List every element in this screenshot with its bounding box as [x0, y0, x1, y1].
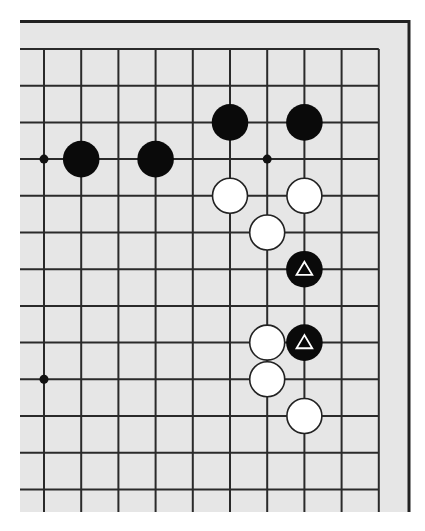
white-stone: [213, 178, 248, 213]
white-stone: [250, 325, 285, 360]
white-stone-body: [250, 362, 285, 397]
black-stone: [286, 251, 323, 288]
white-stone-body: [250, 215, 285, 250]
white-stone-body: [250, 325, 285, 360]
black-stone: [63, 141, 100, 178]
white-stone-body: [213, 178, 248, 213]
go-board: [0, 0, 425, 531]
black-stone-body: [63, 141, 100, 178]
black-stone-body: [137, 141, 174, 178]
black-stone: [212, 104, 249, 141]
board-background: [20, 21, 409, 512]
black-stone: [286, 324, 323, 361]
star-point: [263, 155, 272, 164]
white-stone: [287, 178, 322, 213]
white-stone-body: [287, 399, 322, 434]
white-stone-body: [287, 178, 322, 213]
black-stone-body: [286, 251, 323, 288]
black-stone-body: [286, 324, 323, 361]
go-diagram: [0, 0, 425, 531]
white-stone: [250, 362, 285, 397]
white-stone: [250, 215, 285, 250]
black-stone-body: [286, 104, 323, 141]
white-stone: [287, 399, 322, 434]
black-stone: [286, 104, 323, 141]
star-point: [40, 155, 49, 164]
star-point: [40, 375, 49, 384]
black-stone-body: [212, 104, 249, 141]
black-stone: [137, 141, 174, 178]
